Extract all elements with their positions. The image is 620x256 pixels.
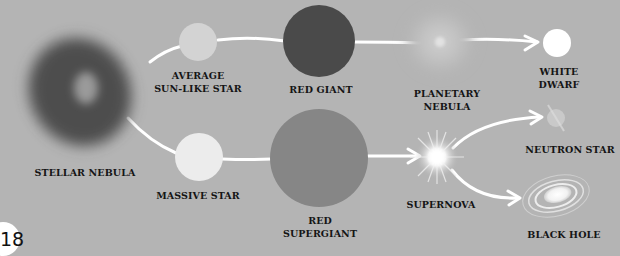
- label-white-dwarf: WHITE DWARF: [539, 65, 580, 91]
- label-line: MASSIVE STAR: [156, 189, 240, 202]
- label-line: SUN-LIKE STAR: [154, 82, 242, 95]
- average-star-icon: [179, 23, 217, 61]
- label-line: AVERAGE: [154, 69, 242, 82]
- neutron-star-icon: [547, 105, 565, 131]
- label-red-giant: RED GIANT: [289, 83, 352, 96]
- label-line: SUPERNOVA: [406, 198, 475, 211]
- label-line: NEUTRON STAR: [525, 143, 614, 156]
- label-neutron-star: NEUTRON STAR: [525, 143, 614, 156]
- supernova-icon: [410, 130, 464, 184]
- label-line: BLACK HOLE: [527, 228, 600, 241]
- white-dwarf-icon: [543, 29, 571, 57]
- page-number: 18: [0, 228, 24, 250]
- label-line: RED: [283, 214, 357, 227]
- massive-star-icon: [175, 133, 223, 181]
- label-line: DWARF: [539, 78, 580, 91]
- label-line: SUPERGIANT: [283, 227, 357, 240]
- label-massive-star: MASSIVE STAR: [156, 189, 240, 202]
- planetary-nebula-icon: [400, 4, 480, 80]
- label-line: STELLAR NEBULA: [35, 166, 136, 179]
- label-red-supergiant: RED SUPERGIANT: [283, 214, 357, 240]
- label-average-star: AVERAGE SUN-LIKE STAR: [154, 69, 242, 95]
- label-supernova: SUPERNOVA: [406, 198, 475, 211]
- label-line: PLANETARY: [414, 87, 480, 100]
- black-hole-icon: [518, 168, 594, 224]
- label-line: RED GIANT: [289, 83, 352, 96]
- red-giant-icon: [283, 5, 355, 77]
- label-planetary-nebula: PLANETARY NEBULA: [414, 87, 480, 113]
- red-supergiant-icon: [270, 109, 368, 207]
- label-black-hole: BLACK HOLE: [527, 228, 600, 241]
- label-stellar-nebula: STELLAR NEBULA: [35, 166, 136, 179]
- label-line: NEBULA: [414, 100, 480, 113]
- label-line: WHITE: [539, 65, 580, 78]
- stellar-nebula-icon: [9, 19, 151, 164]
